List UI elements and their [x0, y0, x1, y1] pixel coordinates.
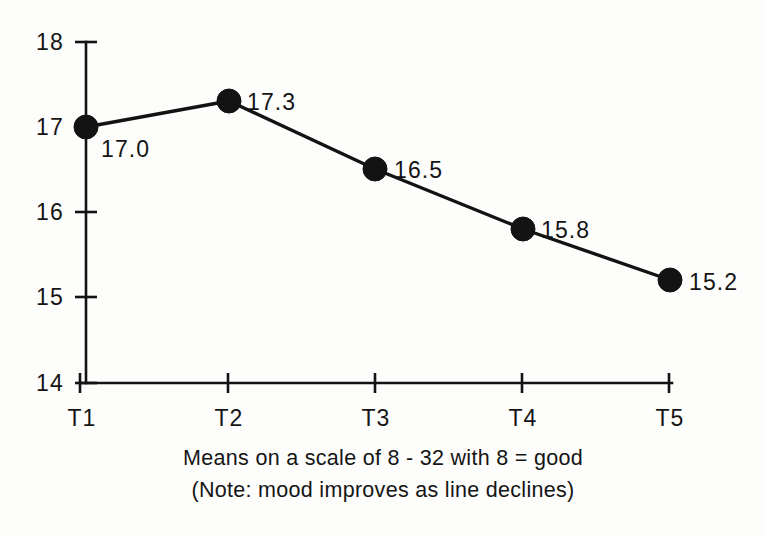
line-chart: 18 17 16 15 14 T1 T2 T3 T4 T5 [0, 0, 766, 535]
data-label-t5: 15.2 [689, 269, 738, 295]
data-label-t4: 15.8 [541, 217, 590, 243]
x-tick-label-t1: T1 [67, 405, 96, 431]
y-tick-label-14: 14 [36, 370, 64, 396]
y-tick-label-17: 17 [36, 114, 64, 140]
x-tick-label-t3: T3 [361, 405, 390, 431]
data-label-t2: 17.3 [247, 89, 296, 115]
series-line-mood [86, 101, 670, 280]
y-tick-label-15: 15 [36, 284, 64, 310]
data-point-labels: 17.0 17.3 16.5 15.8 15.2 [101, 89, 738, 295]
data-point-t5 [658, 268, 682, 292]
x-tick-label-t2: T2 [214, 405, 243, 431]
y-axis: 18 17 16 15 14 [36, 29, 97, 396]
caption-line-1: Means on a scale of 8 - 32 with 8 = good [183, 446, 583, 470]
data-label-t3: 16.5 [394, 157, 443, 183]
y-tick-label-18: 18 [36, 29, 64, 55]
data-point-t2 [217, 89, 241, 113]
data-point-t3 [363, 157, 387, 181]
data-label-t1: 17.0 [101, 136, 150, 162]
chart-figure: 18 17 16 15 14 T1 T2 T3 T4 T5 [0, 0, 766, 535]
y-tick-label-16: 16 [36, 199, 64, 225]
chart-caption: Means on a scale of 8 - 32 with 8 = good… [183, 446, 583, 502]
x-tick-label-t5: T5 [655, 405, 684, 431]
data-point-t4 [511, 217, 535, 241]
data-point-t1 [74, 115, 98, 139]
x-tick-label-t4: T4 [508, 405, 537, 431]
x-axis: T1 T2 T3 T4 T5 [67, 373, 684, 431]
caption-line-2: (Note: mood improves as line declines) [191, 478, 574, 502]
data-series-mood [74, 89, 682, 292]
